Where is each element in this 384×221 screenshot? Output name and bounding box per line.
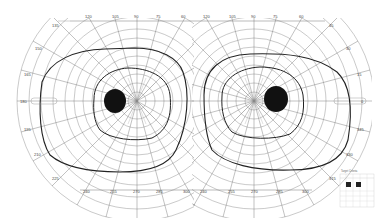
- svg-text:210: 210: [34, 152, 41, 157]
- center-mark: [193, 204, 194, 205]
- svg-text:270: 270: [251, 189, 258, 194]
- svg-text:300: 300: [183, 189, 190, 194]
- visual-field-chart: 120 105 90 75 60 135 150 165 180 195 210…: [0, 0, 384, 221]
- svg-text:300: 300: [302, 189, 309, 194]
- svg-text:0: 0: [361, 99, 364, 104]
- left-blind-spot: [104, 89, 126, 113]
- svg-text:240: 240: [83, 189, 90, 194]
- left-eye-field: [17, 0, 257, 221]
- svg-text:225: 225: [52, 176, 59, 181]
- svg-text:150: 150: [35, 46, 42, 51]
- svg-text:330: 330: [346, 152, 353, 157]
- svg-text:15: 15: [357, 72, 362, 77]
- legend-swatch-right: [356, 182, 361, 187]
- svg-text:180: 180: [20, 99, 27, 104]
- svg-text:315: 315: [329, 176, 336, 181]
- svg-text:45: 45: [329, 23, 334, 28]
- legend-swatch-left: [346, 182, 351, 187]
- svg-text:135: 135: [52, 23, 59, 28]
- svg-text:60: 60: [181, 14, 186, 19]
- svg-text:90: 90: [134, 14, 139, 19]
- svg-text:90: 90: [251, 14, 256, 19]
- svg-text:165: 165: [24, 72, 31, 77]
- svg-text:285: 285: [276, 189, 283, 194]
- svg-text:255: 255: [110, 189, 117, 194]
- svg-text:30: 30: [346, 46, 351, 51]
- svg-text:240: 240: [200, 189, 207, 194]
- svg-text:75: 75: [156, 14, 161, 19]
- legend-box: Target Criteria: [340, 169, 374, 207]
- svg-text:255: 255: [228, 189, 235, 194]
- svg-text:120: 120: [203, 14, 210, 19]
- right-blind-spot: [264, 86, 288, 112]
- svg-text:120: 120: [85, 14, 92, 19]
- svg-text:Target Criteria: Target Criteria: [341, 169, 358, 173]
- svg-text:105: 105: [229, 14, 236, 19]
- svg-text:75: 75: [273, 14, 278, 19]
- svg-text:60: 60: [299, 14, 304, 19]
- svg-text:285: 285: [156, 189, 163, 194]
- svg-text:345: 345: [357, 127, 364, 132]
- svg-text:105: 105: [112, 14, 119, 19]
- svg-text:270: 270: [133, 189, 140, 194]
- svg-text:195: 195: [24, 127, 31, 132]
